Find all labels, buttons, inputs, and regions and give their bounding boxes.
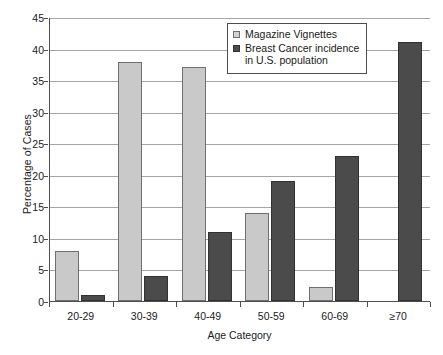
bar-40-49-series1 — [182, 67, 206, 301]
bar-30-39-series2 — [144, 276, 168, 301]
bar-20-29-series2 — [81, 295, 105, 301]
bar-50-59-series1 — [245, 213, 269, 301]
bar-50-59-series2 — [271, 181, 295, 301]
x-axis-labels: 20-2930-3940-4950-5960-69≥70 — [49, 310, 430, 326]
y-tick-label: 30 — [4, 108, 44, 118]
y-tick-mark — [44, 113, 48, 114]
y-tick-mark — [44, 18, 48, 19]
x-tick-mark — [113, 302, 114, 307]
y-tick-mark — [44, 81, 48, 82]
y-tick-mark — [44, 176, 48, 177]
legend-item: Magazine Vignettes — [233, 28, 359, 41]
y-tick-mark — [44, 144, 48, 145]
legend-swatch-dark-icon — [233, 45, 240, 52]
bar-≥70-series2 — [398, 42, 422, 301]
y-tick-label: 20 — [4, 171, 44, 181]
y-tick-label: 40 — [4, 45, 44, 55]
gridline — [50, 81, 430, 82]
x-tick-mark — [367, 302, 368, 307]
gridline — [50, 239, 430, 240]
y-tick-mark — [44, 239, 48, 240]
bar-40-49-series2 — [208, 232, 232, 301]
gridline — [50, 270, 430, 271]
gridline — [50, 18, 430, 19]
y-tick-label: 35 — [4, 76, 44, 86]
bar-20-29-series1 — [55, 251, 79, 301]
gridline — [50, 144, 430, 145]
y-tick-label: 45 — [4, 13, 44, 23]
x-axis-title: Age Category — [49, 329, 430, 341]
bar-60-69-series1 — [309, 287, 333, 302]
y-tick-label: 10 — [4, 234, 44, 244]
y-tick-mark — [44, 270, 48, 271]
x-tick-mark — [430, 302, 431, 307]
bar-chart: Percentage of Cases 051015202530354045 2… — [0, 0, 443, 355]
x-tick-mark — [176, 302, 177, 307]
gridline — [50, 176, 430, 177]
chart-legend: Magazine VignettesBreast Cancer incidenc… — [227, 23, 367, 74]
y-axis-ticks: 051015202530354045 — [0, 18, 44, 302]
gridline — [50, 207, 430, 208]
legend-swatch-light-icon — [233, 31, 240, 38]
x-tick-mark — [303, 302, 304, 307]
bar-60-69-series2 — [335, 156, 359, 301]
y-tick-mark — [44, 302, 48, 303]
y-tick-label: 0 — [4, 297, 44, 307]
x-tick-mark — [240, 302, 241, 307]
y-tick-label: 25 — [4, 139, 44, 149]
x-axis-ticks — [49, 302, 430, 308]
y-tick-mark — [44, 207, 48, 208]
y-tick-label: 5 — [4, 265, 44, 275]
legend-item: Breast Cancer incidence in U.S. populati… — [233, 42, 359, 67]
x-tick-label: ≥70 — [358, 310, 438, 322]
gridline — [50, 113, 430, 114]
legend-label: Magazine Vignettes — [245, 28, 337, 41]
y-tick-mark — [44, 50, 48, 51]
y-tick-label: 15 — [4, 202, 44, 212]
x-tick-mark — [49, 302, 50, 307]
bar-30-39-series1 — [118, 62, 142, 301]
legend-label: Breast Cancer incidence in U.S. populati… — [245, 42, 359, 67]
